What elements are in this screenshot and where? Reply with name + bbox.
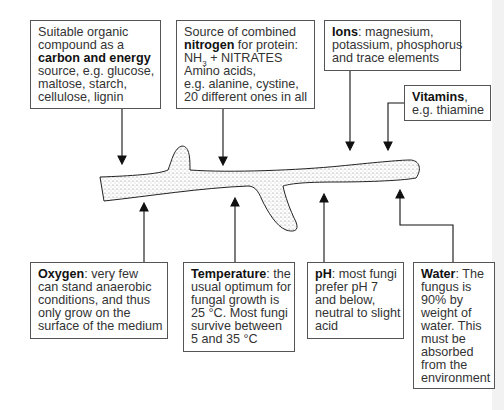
box-text: : the <box>266 267 291 281</box>
box-text: 20 different ones in all <box>184 91 307 104</box>
temperature-box: Temperature: the usual optimum for funga… <box>183 262 295 352</box>
vitamins-box: Vitamins, e.g. thiamine <box>404 85 491 121</box>
arrowhead-icon <box>320 194 328 202</box>
arrowhead-icon <box>140 203 148 211</box>
box-text: , <box>464 90 468 104</box>
box-text: 5 and 35 °C <box>191 333 287 346</box>
carbon-energy-box: Suitable organic compound as a carbon an… <box>30 20 161 109</box>
arrowhead-icon <box>219 157 227 165</box>
water-box: Water: The fungus is 90% by weight of wa… <box>413 262 495 389</box>
box-text: for protein: <box>234 38 298 52</box>
box-text: + NITRATES <box>207 51 283 65</box>
box-text: : very few <box>84 267 138 281</box>
box-heading: nitrogen <box>184 38 234 52</box>
box-text: and trace elements <box>332 52 453 65</box>
box-text: : The <box>456 267 484 281</box>
ph-box: pH: most fungi prefer pH 7 and below, ne… <box>307 262 404 339</box>
box-text: e.g. thiamine <box>412 104 483 117</box>
box-heading: Ions <box>332 25 358 39</box>
arrowhead-icon <box>118 156 126 164</box>
box-text: : most fungi <box>332 267 397 281</box>
box-text: : magnesium, <box>358 25 434 39</box>
box-text: surface of the medium <box>38 320 160 333</box>
box-text: environment <box>421 372 487 385</box>
nitrogen-box: Source of combined nitrogen for protein:… <box>176 20 315 109</box>
box-heading: pH <box>315 267 332 281</box>
water-arrow <box>400 195 453 262</box>
arrowhead-icon <box>384 142 392 150</box>
arrowhead-icon <box>396 190 404 198</box>
box-heading: Oxygen <box>38 267 84 281</box>
arrowhead-icon <box>346 142 354 150</box>
hypha-shape <box>100 146 419 231</box>
box-heading: carbon and energy <box>38 51 151 65</box>
box-text: acid <box>315 320 396 333</box>
box-heading: Water <box>421 267 456 281</box>
ions-box: Ions: magnesium, potassium, phosphorus a… <box>324 20 461 71</box>
arrowhead-icon <box>231 198 239 206</box>
box-text: cellulose, lignin <box>38 91 153 104</box>
box-heading: Vitamins <box>412 90 464 104</box>
box-text: NH <box>184 51 202 65</box>
oxygen-box: Oxygen: very few can stand anaerobic con… <box>30 262 168 339</box>
vitamins-arrow <box>388 103 404 145</box>
box-heading: Temperature <box>191 267 266 281</box>
